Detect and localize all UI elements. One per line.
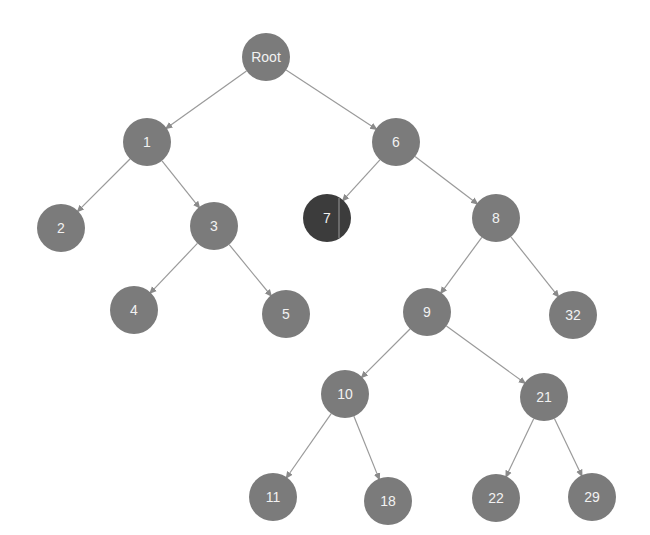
tree-node-n32[interactable]: 32 [549, 291, 597, 339]
node-label: 7 [323, 210, 331, 226]
tree-node-n1[interactable]: 1 [123, 118, 171, 166]
edge-n6-n7 [342, 160, 380, 202]
tree-node-n11[interactable]: 11 [249, 473, 297, 521]
edge-n21-n22 [505, 419, 533, 478]
tree-node-n9[interactable]: 9 [403, 288, 451, 336]
tree-node-n3[interactable]: 3 [190, 202, 238, 250]
tree-node-n21[interactable]: 21 [520, 373, 568, 421]
node-label: 6 [392, 134, 400, 150]
nodes-layer: Root16237845932102111182229 [37, 33, 616, 525]
edge-n1-n2 [77, 159, 130, 212]
node-label: 8 [492, 210, 500, 226]
tree-node-n4[interactable]: 4 [110, 286, 158, 334]
node-label: 32 [565, 307, 581, 323]
tree-node-n10[interactable]: 10 [321, 370, 369, 418]
edge-n9-n21 [446, 326, 526, 384]
node-label: 1 [143, 134, 151, 150]
tree-node-root[interactable]: Root [242, 33, 290, 81]
edge-n3-n4 [149, 243, 197, 294]
node-label: 4 [130, 302, 138, 318]
edge-root-n1 [165, 71, 247, 129]
node-label: Root [251, 49, 281, 65]
node-label: 11 [266, 489, 281, 505]
edge-n1-n3 [162, 161, 200, 209]
tree-node-n7[interactable]: 7 [303, 194, 351, 242]
node-label: 2 [57, 220, 65, 236]
node-label: 5 [282, 306, 290, 322]
edge-n8-n32 [511, 237, 559, 298]
edge-n21-n29 [554, 419, 582, 478]
tree-node-n6[interactable]: 6 [372, 118, 420, 166]
tree-node-n29[interactable]: 29 [568, 473, 616, 521]
node-label: 9 [423, 304, 431, 320]
edge-n10-n18 [354, 416, 380, 480]
tree-node-n22[interactable]: 22 [472, 474, 520, 522]
edge-n6-n8 [415, 157, 478, 205]
node-label: 22 [488, 490, 504, 506]
tree-node-n8[interactable]: 8 [472, 194, 520, 242]
node-label: 21 [536, 389, 552, 405]
edge-n10-n11 [286, 414, 332, 479]
node-label: 18 [380, 493, 396, 509]
tree-diagram: Root16237845932102111182229 [0, 0, 650, 535]
node-label: 10 [337, 386, 353, 402]
node-label: 29 [584, 489, 600, 505]
tree-node-n5[interactable]: 5 [262, 290, 310, 338]
tree-node-n18[interactable]: 18 [364, 477, 412, 525]
edge-n9-n10 [361, 329, 410, 378]
node-label: 3 [210, 218, 218, 234]
edge-root-n6 [286, 70, 378, 130]
tree-node-n2[interactable]: 2 [37, 204, 85, 252]
edge-n8-n9 [440, 237, 482, 294]
edge-n3-n5 [229, 245, 272, 297]
